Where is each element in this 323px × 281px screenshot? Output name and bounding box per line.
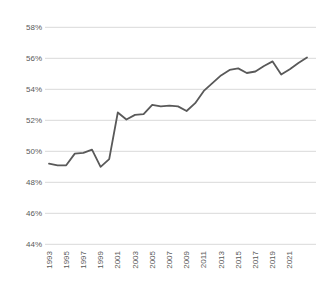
y-axis-tick-label: 48% [26,178,42,187]
y-axis-tick-label: 50% [26,147,42,156]
x-axis-tick-label: 2005 [148,250,157,268]
x-axis-tick-label: 2011 [199,250,208,268]
x-axis-tick-label: 2001 [113,250,122,268]
x-axis-tick-label: 2009 [182,250,191,268]
x-axis-tick-label: 1997 [79,250,88,268]
x-axis-tick-label: 1995 [62,250,71,268]
x-axis-tick-label: 2003 [131,250,140,268]
y-axis-tick-label: 58% [26,23,42,32]
chart-canvas: 44%46%48%50%52%54%56%58%1993199519971999… [0,0,323,281]
y-axis-tick-label: 54% [26,85,42,94]
x-axis-tick-label: 2007 [165,250,174,268]
data-series-line [49,58,307,167]
x-axis-tick-label: 2017 [251,250,260,268]
x-axis-tick-label: 2021 [285,250,294,268]
y-axis-tick-label: 46% [26,209,42,218]
y-axis-tick-label: 52% [26,116,42,125]
y-axis-tick-label: 56% [26,54,42,63]
y-axis-tick-label: 44% [26,240,42,249]
x-axis-tick-label: 2015 [234,250,243,268]
line-chart: 44%46%48%50%52%54%56%58%1993199519971999… [0,0,323,281]
x-axis-tick-label: 1999 [96,250,105,268]
x-axis-tick-label: 2013 [217,250,226,268]
x-axis-tick-label: 1993 [45,250,54,268]
x-axis-tick-label: 2019 [268,250,277,268]
